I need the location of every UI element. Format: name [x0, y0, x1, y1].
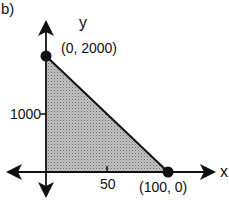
point-100-0 [163, 167, 174, 178]
point-top-label: (0, 2000) [61, 40, 117, 56]
x-axis-label: x [220, 163, 228, 180]
point-right-label: (100, 0) [139, 179, 187, 195]
y-axis-label: y [79, 14, 87, 31]
tick-y-1000-label: 1000 [10, 106, 41, 122]
panel-label: b) [1, 0, 14, 17]
point-0-2000 [41, 51, 52, 62]
tick-x-50-label: 50 [100, 176, 116, 192]
graph-canvas: b) y x (0, 2000) (100, 0) 50 1000 [0, 0, 229, 206]
